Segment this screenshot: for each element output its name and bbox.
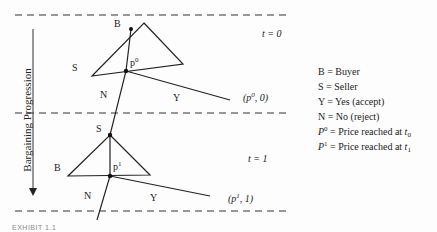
legend-item-price1: P1 = Price reached at t1 xyxy=(318,139,411,154)
axis-label: Bargaining Progression xyxy=(21,65,33,175)
stage0-accept-label: Y xyxy=(173,93,180,103)
legend-item-no: N = No (reject) xyxy=(318,109,411,124)
stage1-reject-label: N xyxy=(84,191,91,201)
decision-path xyxy=(97,29,131,220)
stage0-time-label: t = 0 xyxy=(262,29,282,39)
price1-node xyxy=(108,174,112,178)
figure-caption: EXHIBIT 1.1 xyxy=(12,224,56,231)
stage1-accept-branch xyxy=(110,176,210,196)
stage0-triangle xyxy=(92,23,183,76)
legend-item-buyer: B = Buyer xyxy=(318,64,411,79)
stage1-accept-label: Y xyxy=(150,193,157,203)
price0-node xyxy=(124,69,128,73)
buyer-node xyxy=(129,27,133,31)
seller-node xyxy=(108,133,112,137)
stage0-payoff-label: (p0, 0) xyxy=(243,93,268,103)
stage0-reject-label: N xyxy=(100,90,107,100)
stage1-triangle xyxy=(68,135,150,176)
stage0-side-node-label: S xyxy=(72,63,78,73)
stage1-top-node-label: S xyxy=(96,124,102,134)
stage1-payoff-label: (p1, 1) xyxy=(228,194,253,204)
stage1-time-label: t = 1 xyxy=(248,154,268,164)
legend: B = Buyer S = Seller Y = Yes (accept) N … xyxy=(318,64,411,154)
stage0-price-label: p0 xyxy=(130,58,139,68)
stage0-top-node-label: B xyxy=(114,19,121,29)
legend-item-seller: S = Seller xyxy=(318,79,411,94)
stage1-side-node-label: B xyxy=(54,163,61,173)
legend-item-price0: P0 = Price reached at t0 xyxy=(318,124,411,139)
stage1-price-label: p1 xyxy=(113,162,122,172)
arrow-down-icon xyxy=(29,188,37,196)
legend-item-yes: Y = Yes (accept) xyxy=(318,94,411,109)
